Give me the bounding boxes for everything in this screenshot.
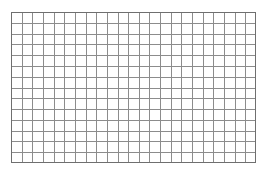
grid-figure xyxy=(11,12,256,163)
grid-svg xyxy=(11,12,256,163)
page-canvas xyxy=(0,0,267,177)
